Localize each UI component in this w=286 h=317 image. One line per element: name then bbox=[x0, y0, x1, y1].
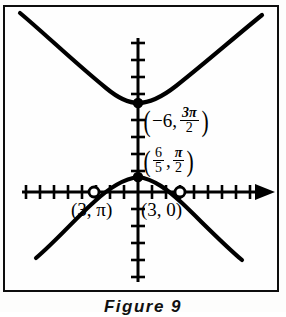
upper-point-r-value: −6, bbox=[152, 111, 177, 130]
lower-point-expression: ( 6 5 , π 2 ) bbox=[143, 146, 194, 176]
close-paren-glyph: ) bbox=[201, 109, 208, 132]
plot-frame-border bbox=[3, 5, 279, 292]
open-paren-glyph: ( bbox=[143, 109, 150, 132]
open-paren-glyph: ( bbox=[143, 149, 150, 172]
upper-point-body: −6, 3π 2 bbox=[151, 106, 201, 136]
lower-point-body: 6 5 , π 2 bbox=[151, 146, 186, 176]
close-paren-glyph: ) bbox=[187, 149, 194, 172]
lower-point-r-numerator: 6 bbox=[153, 146, 164, 161]
lower-point-r-denominator: 5 bbox=[153, 161, 164, 175]
lower-point-r-fraction: 6 5 bbox=[153, 146, 164, 176]
lower-point-label: ( 6 5 , π 2 ) bbox=[143, 146, 194, 176]
lower-point-theta-denominator: 2 bbox=[173, 161, 184, 175]
upper-point-expression: ( −6, 3π 2 ) bbox=[143, 106, 209, 136]
upper-point-theta-denominator: 2 bbox=[184, 121, 195, 135]
upper-point-label: ( −6, 3π 2 ) bbox=[143, 106, 209, 136]
lower-point-comma: , bbox=[166, 151, 171, 170]
lower-point-theta-fraction: π 2 bbox=[173, 146, 185, 176]
lower-point-theta-numerator: π bbox=[173, 146, 185, 161]
figure-caption: Figure 9 bbox=[0, 297, 286, 317]
upper-point-theta-numerator: 3π bbox=[180, 106, 199, 121]
left-intercept-label: (3, π) bbox=[71, 200, 112, 219]
upper-point-theta-fraction: 3π 2 bbox=[180, 106, 199, 136]
right-intercept-label: (3, 0) bbox=[141, 200, 182, 219]
